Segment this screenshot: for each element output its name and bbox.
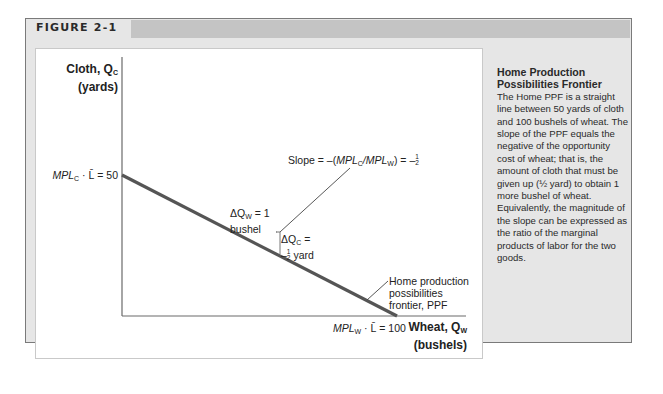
ppf-line [122,175,397,316]
y-intercept-label: MPLC · L̄ = 50 [53,169,118,185]
y-axis-title: Cloth, QC (yards) [66,62,118,95]
ppf-label: Home production possibilities frontier, … [389,275,469,311]
x-axis-title: Wheat, QW (bushels) [408,320,467,353]
delta-qc-annotation: ΔQC = –12 yard [281,233,314,261]
figure-caption: Home Production Possibilities Frontier T… [497,66,629,265]
ppf-leader [367,281,388,300]
caption-title: Home Production Possibilities Frontier [497,66,629,91]
delta-qw-annotation: ΔQW = 1 bushel [230,207,270,235]
caption-body: The Home PPF is a straight line between … [497,91,629,265]
slope-triangle [276,232,280,254]
x-intercept-label: MPLW · L̄ = 100 [333,322,406,338]
slope-annotation: Slope = –(MPLC/MPLW) = –12 [288,154,419,170]
slope-leader [280,168,350,232]
